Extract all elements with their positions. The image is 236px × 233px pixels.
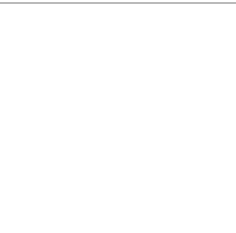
go-board — [0, 0, 236, 233]
